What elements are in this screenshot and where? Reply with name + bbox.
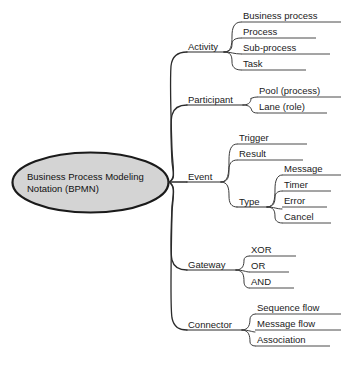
leaf-label-xor: XOR — [251, 244, 272, 255]
leaf-error[interactable]: Error — [282, 195, 327, 207]
leaf-trigger[interactable]: Trigger — [237, 132, 307, 144]
branch-event[interactable]: Event Trigger Result Type — [187, 132, 341, 223]
branch-label-connector: Connector — [188, 319, 232, 330]
leaf-label-result: Result — [239, 148, 266, 159]
leaf-label-business-process: Business process — [243, 10, 318, 21]
leaf-connector-pool-process — [243, 97, 257, 105]
branch-label-gateway: Gateway — [188, 259, 226, 270]
leaf-connector-lane-role — [243, 105, 257, 113]
leaf-label-message: Message — [284, 163, 323, 174]
leaf-connector-trigger — [221, 144, 237, 182]
leaf-connector-and — [236, 270, 249, 288]
leaf-connector-cancel — [267, 207, 282, 223]
trunk-group — [169, 52, 187, 330]
leaf-label-sequence-flow: Sequence flow — [257, 302, 319, 313]
root-node-label-line1: Business Process Modeling — [27, 171, 144, 182]
leaf-label-process: Process — [243, 26, 278, 37]
leaf-label-pool-process: Pool (process) — [259, 85, 320, 96]
leaf-connector-type — [221, 182, 237, 207]
leaf-association[interactable]: Association — [255, 334, 330, 346]
leaf-message[interactable]: Message — [282, 163, 341, 175]
branch-label-event: Event — [188, 171, 213, 182]
leaf-sub-process[interactable]: Sub-process — [241, 42, 330, 54]
leaf-connector-association — [242, 330, 255, 346]
leaf-message-flow[interactable]: Message flow — [255, 318, 341, 330]
root-node[interactable]: Business Process Modeling Notation (BPMN… — [13, 153, 169, 213]
leaf-lane-role[interactable]: Lane (role) — [257, 101, 327, 113]
leaf-xor[interactable]: XOR — [249, 244, 296, 256]
root-node-label-line2: Notation (BPMN) — [27, 183, 99, 194]
branch-gateway[interactable]: Gateway XOR OR AND — [187, 244, 296, 288]
leaf-label-sub-process: Sub-process — [243, 42, 297, 53]
leaf-timer[interactable]: Timer — [282, 179, 331, 191]
leaf-label-trigger: Trigger — [239, 132, 269, 143]
leaf-connector-xor — [236, 256, 249, 270]
leaf-or[interactable]: OR — [249, 260, 289, 272]
leaf-label-message-flow: Message flow — [257, 318, 315, 329]
leaf-connector-business-process — [224, 22, 241, 52]
leaf-connector-process — [224, 38, 241, 52]
branch-label-participant: Participant — [188, 94, 233, 105]
trunk-to-participant — [169, 105, 187, 182]
leaf-label-and: AND — [251, 276, 271, 287]
mind-map-svg: Business Process Modeling Notation (BPMN… — [0, 0, 347, 374]
leaf-result[interactable]: Result — [237, 148, 303, 160]
leaf-sequence-flow[interactable]: Sequence flow — [255, 302, 341, 314]
leaf-process[interactable]: Process — [241, 26, 316, 38]
leaf-label-or: OR — [251, 260, 265, 271]
leaf-label-error: Error — [284, 195, 305, 206]
leaf-label-association: Association — [257, 334, 306, 345]
leaf-label-lane-role: Lane (role) — [259, 101, 305, 112]
leaf-business-process[interactable]: Business process — [241, 10, 341, 22]
branch-connector[interactable]: Connector Sequence flow Message flow Ass… — [187, 302, 341, 346]
leaf-connector-task — [224, 52, 241, 70]
branch-activity[interactable]: Activity Business process Process Sub-pr… — [187, 10, 341, 70]
leaf-task[interactable]: Task — [241, 58, 306, 70]
leaf-and[interactable]: AND — [249, 276, 294, 288]
branch-participant[interactable]: Participant Pool (process) Lane (role) — [187, 85, 341, 113]
mind-map-canvas: Business Process Modeling Notation (BPMN… — [0, 0, 347, 374]
leaf-cancel[interactable]: Cancel — [282, 211, 331, 223]
branch-label-activity: Activity — [188, 41, 218, 52]
leaf-pool-process[interactable]: Pool (process) — [257, 85, 341, 97]
subbranch-type[interactable]: Type Message Timer Error — [237, 163, 341, 223]
leaf-label-cancel: Cancel — [284, 211, 314, 222]
subbranch-label-type: Type — [239, 196, 260, 207]
leaf-label-timer: Timer — [284, 179, 308, 190]
leaf-connector-sequence-flow — [242, 314, 255, 330]
leaf-label-task: Task — [243, 58, 263, 69]
